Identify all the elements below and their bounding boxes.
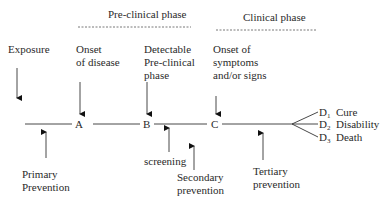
screening-label: screening [144,155,186,168]
primary-prevention-label: Primary Prevention [22,168,70,194]
clinical-phase-label: Clinical phase [243,11,306,24]
outcome-death: D3 Death [319,131,362,148]
tertiary-prevention-label: Tertiary prevention [253,165,300,191]
onset-of-symptoms-label: Onset of symptoms and/or signs [213,43,266,82]
preclinical-phase-label: Pre-clinical phase [108,8,187,21]
node-c: C [209,118,220,130]
node-b: B [141,118,152,130]
onset-of-disease-label: Onset of disease [76,43,120,69]
exposure-label: Exposure [8,43,50,56]
secondary-prevention-label: Secondary prevention [177,171,224,197]
node-a: A [73,118,85,130]
detectable-preclinical-label: Detectable Pre-clinical phase [144,43,195,82]
